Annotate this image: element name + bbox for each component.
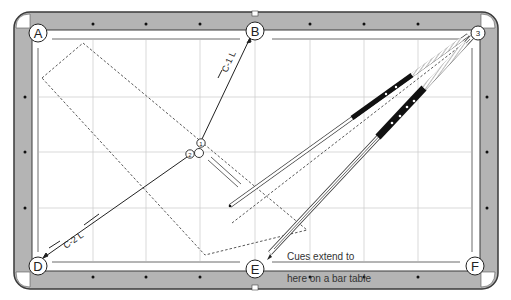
pocket-e: E (246, 260, 264, 278)
pocket-c: 3 (471, 26, 485, 40)
pocket-f: F (466, 257, 484, 275)
pocket-a: A (29, 24, 47, 42)
bar-table-note: Cues extend to here on a bar table (287, 240, 371, 295)
ball-1: 1 (197, 139, 205, 147)
svg-text:E: E (251, 262, 260, 277)
svg-text:B: B (251, 24, 260, 39)
svg-text:A: A (34, 26, 43, 41)
svg-text:3: 3 (476, 29, 481, 38)
pocket-d: D (29, 257, 47, 275)
pool-table-diagram: C-1 L C-2 L 1 2 A B 3 (0, 0, 511, 300)
table-rails (14, 11, 498, 290)
note-line-1: Cues extend to (287, 251, 371, 262)
cue-ball (195, 149, 204, 158)
svg-text:D: D (33, 259, 42, 274)
ball-2: 2 (186, 150, 194, 158)
pocket-b: B (246, 22, 264, 40)
note-line-2: here on a bar table (287, 273, 371, 284)
svg-text:F: F (471, 259, 479, 274)
